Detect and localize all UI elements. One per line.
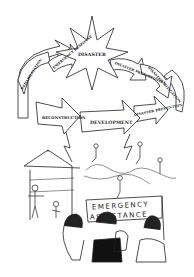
banner-line-2: ASSISTANCE (90, 211, 149, 222)
arrow-development (80, 100, 140, 134)
label-development: DEVELOPMENT (90, 120, 133, 125)
label-disaster: DISASTER (78, 52, 106, 57)
disaster-cycle-illustration: DISASTER REHABILITATION EMERGENCY RESPON… (0, 0, 194, 277)
label-reconstruction: RECONSTRUCTION (42, 115, 86, 120)
